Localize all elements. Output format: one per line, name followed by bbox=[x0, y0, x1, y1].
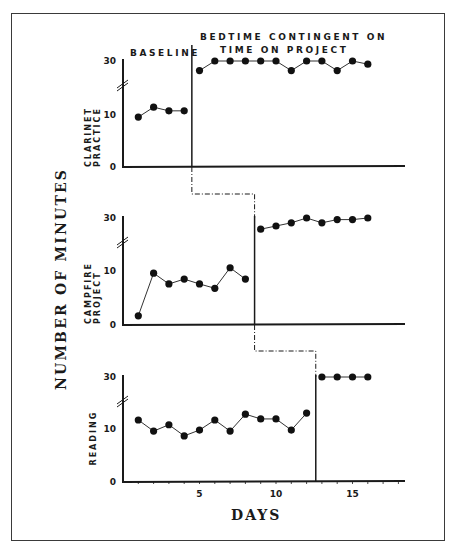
data-point bbox=[303, 57, 310, 64]
data-point bbox=[196, 426, 203, 433]
data-point bbox=[135, 312, 142, 319]
y-tick-label: 0 bbox=[110, 320, 116, 330]
data-point bbox=[257, 415, 264, 422]
treatment-series-line bbox=[200, 61, 368, 71]
chart-panels: 01030CLARINETPRACTICE01030CAMPFIREPROJEC… bbox=[84, 45, 405, 499]
y-tick-label: 10 bbox=[103, 266, 116, 276]
y-tick-label: 0 bbox=[110, 477, 116, 487]
data-point bbox=[135, 113, 142, 120]
data-point bbox=[288, 426, 295, 433]
y-axis-label: NUMBER OF MINUTES bbox=[53, 168, 69, 390]
phase-label-baseline: BASELINE bbox=[130, 48, 200, 58]
data-point bbox=[364, 214, 371, 221]
data-point bbox=[349, 216, 356, 223]
x-tick-label: 10 bbox=[270, 489, 283, 499]
data-point bbox=[318, 219, 325, 226]
panel-label: READING bbox=[89, 411, 98, 466]
panel-label-line1: CAMPFIRE bbox=[84, 262, 93, 324]
data-point bbox=[364, 373, 371, 380]
data-point bbox=[288, 67, 295, 74]
data-point bbox=[349, 57, 356, 64]
x-tick-label: 5 bbox=[196, 489, 202, 499]
panel-label-line1: CLARINET bbox=[84, 107, 93, 167]
data-point bbox=[272, 57, 279, 64]
y-tick-label: 30 bbox=[103, 56, 116, 66]
data-point bbox=[165, 107, 172, 114]
data-point bbox=[318, 373, 325, 380]
phase-step-connector bbox=[255, 325, 316, 377]
data-point bbox=[227, 57, 234, 64]
data-point bbox=[349, 373, 356, 380]
data-point bbox=[257, 57, 264, 64]
panel-3: 01030READING bbox=[89, 372, 405, 487]
baseline-series-line bbox=[138, 413, 306, 436]
data-point bbox=[318, 57, 325, 64]
data-point bbox=[242, 411, 249, 418]
data-point bbox=[303, 410, 310, 417]
data-point bbox=[272, 222, 279, 229]
data-point bbox=[303, 214, 310, 221]
data-point bbox=[334, 373, 341, 380]
data-point bbox=[211, 416, 218, 423]
data-point bbox=[242, 57, 249, 64]
data-point bbox=[364, 61, 371, 68]
data-point bbox=[211, 285, 218, 292]
data-point bbox=[150, 270, 157, 277]
panel-label-line2: PRACTICE bbox=[93, 107, 102, 167]
x-axis-label: DAYS bbox=[231, 507, 281, 523]
baseline-series-line bbox=[138, 107, 184, 117]
data-point bbox=[135, 416, 142, 423]
data-point bbox=[288, 219, 295, 226]
data-point bbox=[181, 107, 188, 114]
x-axis bbox=[123, 481, 405, 482]
data-point bbox=[272, 415, 279, 422]
y-tick-label: 30 bbox=[103, 213, 116, 223]
data-point bbox=[196, 280, 203, 287]
data-point bbox=[165, 280, 172, 287]
panel-2: 01030CAMPFIREPROJECT bbox=[84, 213, 405, 330]
y-tick-label: 30 bbox=[103, 372, 116, 382]
y-tick-label: 10 bbox=[103, 110, 116, 120]
phase-label-treatment-line2: TIME ON PROJECT bbox=[220, 45, 348, 55]
panel-1: 01030CLARINETPRACTICE bbox=[84, 45, 405, 172]
data-point bbox=[334, 67, 341, 74]
data-point bbox=[227, 264, 234, 271]
data-point bbox=[181, 276, 188, 283]
data-point bbox=[196, 67, 203, 74]
phase-step-connector bbox=[192, 167, 255, 218]
x-axis bbox=[123, 166, 405, 167]
y-tick-label: 0 bbox=[110, 162, 116, 172]
phase-label-treatment-line1: BEDTIME CONTINGENT ON bbox=[200, 32, 387, 42]
panel-label-line2: PROJECT bbox=[93, 271, 102, 324]
x-tick-label: 15 bbox=[346, 489, 359, 499]
multiple-baseline-chart: 01030CLARINETPRACTICE01030CAMPFIREPROJEC… bbox=[0, 0, 459, 548]
data-point bbox=[165, 421, 172, 428]
data-point bbox=[211, 57, 218, 64]
data-point bbox=[181, 432, 188, 439]
y-tick-label: 10 bbox=[103, 424, 116, 434]
data-point bbox=[227, 428, 234, 435]
x-axis bbox=[123, 324, 405, 325]
phase-change-lines bbox=[192, 167, 316, 377]
data-point bbox=[150, 104, 157, 111]
data-point bbox=[334, 216, 341, 223]
data-point bbox=[242, 276, 249, 283]
data-point bbox=[150, 428, 157, 435]
data-point bbox=[257, 226, 264, 233]
